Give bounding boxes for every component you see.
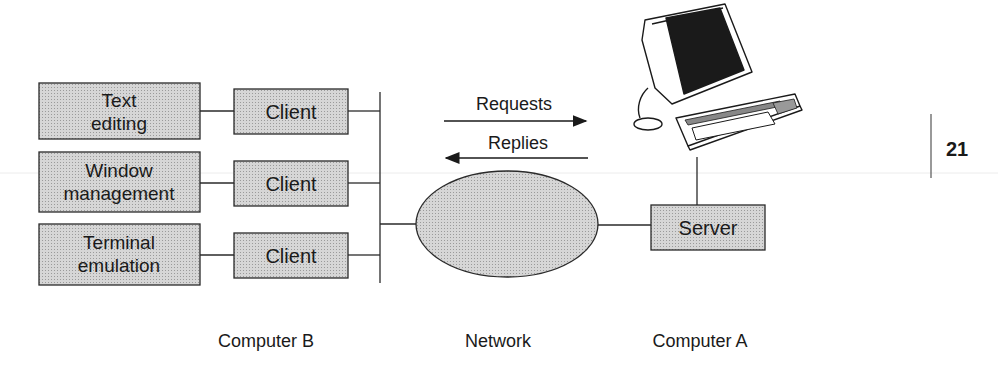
app-label-line2: management bbox=[64, 183, 176, 204]
page-number: 21 bbox=[946, 138, 968, 160]
caption-computer-a: Computer A bbox=[652, 331, 747, 351]
app-label-line1: Terminal bbox=[83, 232, 155, 253]
app-label-line1: Window bbox=[85, 160, 153, 181]
client-box: Client bbox=[234, 161, 348, 206]
app-label-line2: editing bbox=[91, 113, 147, 134]
requests-arrow: Requests bbox=[444, 94, 586, 121]
server-box: Server bbox=[651, 205, 765, 250]
client-server-diagram: Text editing Window management Terminal … bbox=[0, 0, 998, 379]
server-label: Server bbox=[679, 217, 738, 239]
replies-arrow: Replies bbox=[446, 133, 588, 158]
replies-label: Replies bbox=[488, 133, 548, 153]
client-label: Client bbox=[265, 173, 317, 195]
client-box: Client bbox=[234, 89, 348, 134]
client-box: Client bbox=[234, 233, 348, 278]
requests-label: Requests bbox=[476, 94, 552, 114]
app-label-line1: Text bbox=[102, 90, 138, 111]
client-label: Client bbox=[265, 101, 317, 123]
mouse-icon bbox=[634, 118, 662, 130]
workstation-icon bbox=[634, 4, 802, 150]
caption-computer-b: Computer B bbox=[218, 331, 314, 351]
caption-network: Network bbox=[465, 331, 532, 351]
app-label-line2: emulation bbox=[78, 255, 160, 276]
app-box-text-editing: Text editing bbox=[39, 83, 200, 139]
app-box-terminal-emulation: Terminal emulation bbox=[39, 224, 200, 285]
bus-connectors bbox=[348, 92, 416, 283]
app-box-window-management: Window management bbox=[39, 152, 200, 212]
app-client-connectors bbox=[200, 111, 234, 255]
network-cloud bbox=[416, 171, 598, 277]
client-label: Client bbox=[265, 245, 317, 267]
